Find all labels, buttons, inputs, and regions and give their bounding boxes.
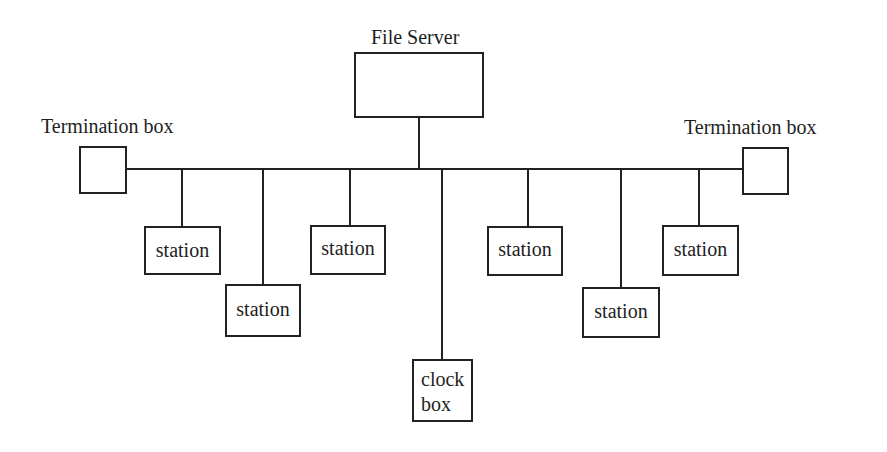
station-6-drop bbox=[698, 169, 700, 226]
station-2-box: station bbox=[225, 284, 301, 337]
station-6-label: station bbox=[664, 238, 737, 260]
station-5-label: station bbox=[584, 300, 658, 322]
network-diagram: File Server Termination box Termination … bbox=[0, 0, 887, 452]
station-3-box: station bbox=[310, 225, 386, 275]
station-5-drop bbox=[620, 169, 622, 288]
station-3-drop bbox=[349, 169, 351, 226]
station-1-box: station bbox=[144, 226, 221, 275]
station-3-label: station bbox=[312, 237, 384, 259]
network-bus bbox=[125, 168, 743, 170]
station-1-drop bbox=[181, 169, 183, 227]
termination-box-right bbox=[742, 147, 789, 195]
clock-box-label-line1: clock bbox=[421, 367, 464, 392]
station-5-box: station bbox=[582, 287, 660, 338]
file-server-box bbox=[354, 52, 484, 118]
file-server-label: File Server bbox=[371, 27, 459, 47]
clock-box: clock box bbox=[412, 359, 473, 422]
termination-box-left bbox=[79, 146, 127, 194]
clock-box-label-line2: box bbox=[421, 392, 464, 417]
station-4-drop bbox=[527, 169, 529, 227]
termination-box-right-label: Termination box bbox=[684, 117, 816, 137]
clock-box-drop bbox=[441, 169, 443, 360]
station-6-box: station bbox=[662, 225, 739, 276]
station-4-box: station bbox=[487, 226, 563, 276]
station-4-label: station bbox=[489, 238, 561, 260]
file-server-stem bbox=[418, 117, 420, 169]
station-1-label: station bbox=[146, 239, 219, 261]
station-2-drop bbox=[262, 169, 264, 285]
clock-box-label: clock box bbox=[421, 367, 464, 417]
termination-box-left-label: Termination box bbox=[41, 116, 173, 136]
station-2-label: station bbox=[227, 298, 299, 320]
